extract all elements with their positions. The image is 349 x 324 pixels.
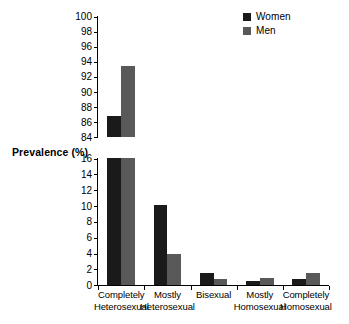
x-category-label-3: MostlyHomosexual: [234, 289, 286, 312]
bar-men-4: [306, 273, 320, 285]
y-tick-label-upper-88: 88: [81, 103, 92, 113]
bar-women-0: [107, 116, 121, 136]
y-tick-label-upper-100: 100: [75, 12, 92, 22]
y-tick-label-lower-6: 6: [86, 233, 92, 243]
x-category-label-line: Homosexual: [280, 301, 332, 313]
y-tick-label-lower-16: 16: [81, 154, 92, 164]
x-category-label-line: Mostly: [140, 289, 195, 301]
bar-men-0: [121, 158, 135, 285]
y-tick-label-lower-0: 0: [86, 281, 92, 291]
y-tick-label-upper-98: 98: [81, 27, 92, 37]
y-axis-title: Prevalence (%): [12, 146, 88, 158]
x-category-label-4: CompletelyHomosexual: [280, 289, 332, 312]
y-tick-label-upper-96: 96: [81, 42, 92, 52]
y-tick-label-upper-86: 86: [81, 118, 92, 128]
bar-women-2: [200, 273, 214, 285]
x-category-label-line: Mostly: [234, 289, 286, 301]
y-tick-lower-6: [94, 238, 98, 239]
bar-women-0: [107, 158, 121, 285]
bar-women-1: [154, 205, 168, 285]
bars-lower: [98, 158, 329, 285]
y-tick-label-upper-84: 84: [81, 133, 92, 143]
y-tick-label-lower-14: 14: [81, 170, 92, 180]
x-category-label-line: Bisexual: [196, 289, 231, 301]
y-tick-lower-12: [94, 190, 98, 191]
y-tick-label-upper-94: 94: [81, 57, 92, 67]
bar-women-3: [246, 281, 260, 285]
bars-upper: [98, 16, 329, 137]
y-tick-lower-8: [94, 222, 98, 223]
y-tick-upper-92: [94, 77, 98, 78]
y-tick-lower-16: [94, 159, 98, 160]
y-tick-label-lower-12: 12: [81, 186, 92, 196]
y-tick-lower-10: [94, 206, 98, 207]
y-tick-label-lower-2: 2: [86, 265, 92, 275]
y-tick-lower-14: [94, 174, 98, 175]
bar-chart: Women Men Prevalence (%) 848688909294969…: [0, 0, 349, 324]
chart-panel-upper: 8486889092949698100: [97, 16, 329, 138]
y-tick-label-lower-4: 4: [86, 249, 92, 259]
x-category-label-line: Completely: [280, 289, 332, 301]
y-tick-lower-2: [94, 269, 98, 270]
x-category-label-line: Homosexual: [234, 301, 286, 313]
chart-panel-lower: 0246810121416: [97, 158, 329, 286]
bar-men-3: [260, 278, 274, 284]
y-tick-upper-94: [94, 62, 98, 63]
y-tick-lower-0: [94, 285, 98, 286]
y-tick-label-lower-10: 10: [81, 202, 92, 212]
y-tick-label-upper-90: 90: [81, 88, 92, 98]
y-tick-upper-84: [94, 137, 98, 138]
bar-women-4: [292, 279, 306, 285]
x-axis-category-labels: CompletelyHeterosexualMostlyHeterosexual…: [97, 289, 329, 321]
y-tick-upper-100: [94, 17, 98, 18]
bar-men-0: [121, 66, 135, 137]
y-tick-label-lower-8: 8: [86, 217, 92, 227]
y-tick-lower-4: [94, 254, 98, 255]
y-tick-upper-96: [94, 47, 98, 48]
y-tick-upper-88: [94, 107, 98, 108]
x-axis-line: [97, 285, 329, 286]
y-tick-upper-86: [94, 122, 98, 123]
y-tick-upper-90: [94, 92, 98, 93]
bar-men-1: [167, 254, 181, 285]
x-category-label-2: Bisexual: [196, 289, 231, 301]
y-tick-upper-98: [94, 32, 98, 33]
x-category-label-1: MostlyHeterosexual: [140, 289, 195, 312]
y-tick-label-upper-92: 92: [81, 72, 92, 82]
bar-men-2: [214, 279, 228, 285]
x-category-label-line: Heterosexual: [140, 301, 195, 313]
